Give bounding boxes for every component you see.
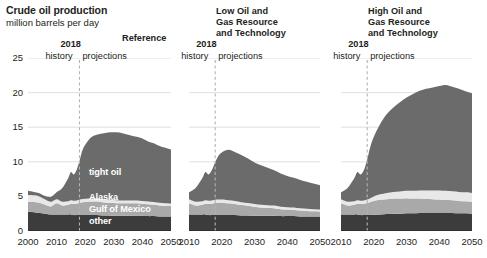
x-axis-label: 2040 [422,237,456,247]
panel-reference: Reference 200020102020203020402050051015… [0,0,178,258]
history-label: history [45,51,72,61]
y-axis-label: 25 [1,53,23,63]
series-label-alaska: Alaska [89,192,118,202]
panel-high-resource: High Oil and Gas Resource and Technology… [328,0,478,258]
y-axis-label: 20 [1,88,23,98]
series-label-other: other [89,216,111,226]
divider-year-label: 2018 [196,39,216,49]
series-label-gulf-of-mexico: Gulf of Mexico [89,204,151,214]
plot-area-high-resource [341,58,472,231]
stacked-area-plot [189,58,320,231]
x-axis-label: 2010 [324,237,358,247]
x-axis-label: 2020 [205,237,239,247]
divider-year-label: 2018 [60,39,80,49]
y-axis-label: 0 [1,226,23,236]
history-label: history [181,51,208,61]
x-axis-label: 2010 [172,237,206,247]
y-axis-label: 5 [1,191,23,201]
area-band-tight-oil [341,85,472,202]
area-band-other [189,214,320,231]
projections-label: projections [218,51,262,61]
x-axis-label: 2050 [455,237,487,247]
y-axis-label: 10 [1,157,23,167]
x-axis-label: 2030 [390,237,424,247]
area-band-other [341,213,472,231]
stacked-area-plot [341,58,472,231]
panel-title-high-resource: High Oil and Gas Resource and Technology [368,6,438,40]
y-axis-label: 15 [1,122,23,132]
x-axis-label: 2040 [270,237,304,247]
area-band-tight-oil [189,150,320,210]
divider-year-label: 2018 [348,39,368,49]
projections-label: projections [82,51,126,61]
projections-label: projections [370,51,414,61]
history-label: history [333,51,360,61]
panel-title-low-resource: Low Oil and Gas Resource and Technology [216,6,286,40]
x-axis-label: 2030 [238,237,272,247]
panel-low-resource: Low Oil and Gas Resource and Technology … [178,0,328,258]
panel-title-reference: Reference [122,33,166,44]
series-label-tight-oil: tight oil [89,167,121,177]
x-axis-label: 2020 [357,237,391,247]
plot-area-low-resource [189,58,320,231]
